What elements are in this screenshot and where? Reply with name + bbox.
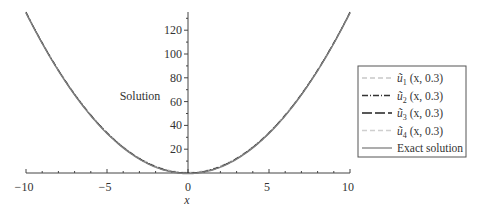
y-axis: 20406080100120 bbox=[164, 12, 188, 173]
x-axis-label: x bbox=[183, 193, 190, 207]
x-tick-label: 5 bbox=[264, 180, 270, 194]
y-tick-label: 120 bbox=[164, 23, 182, 37]
x-tick-label: −10 bbox=[15, 180, 34, 194]
y-axis-label: Solution bbox=[120, 89, 161, 103]
x-tick-label: 10 bbox=[342, 180, 354, 194]
y-tick-label: 60 bbox=[170, 95, 182, 109]
legend: ũ1 (x, 0.3)ũ2 (x, 0.3)ũ3 (x, 0.3)ũ4 (x, … bbox=[358, 66, 466, 157]
x-tick-label: −5 bbox=[99, 180, 112, 194]
svg-text:Exact solution: Exact solution bbox=[397, 142, 463, 154]
x-tick-label: 0 bbox=[185, 180, 191, 194]
y-tick-label: 20 bbox=[170, 142, 182, 156]
chart: −10−50510 20406080100120 x Solution ũ1 (… bbox=[0, 0, 482, 213]
y-tick-label: 40 bbox=[170, 118, 182, 132]
y-tick-label: 80 bbox=[170, 71, 182, 85]
y-tick-label: 100 bbox=[164, 47, 182, 61]
